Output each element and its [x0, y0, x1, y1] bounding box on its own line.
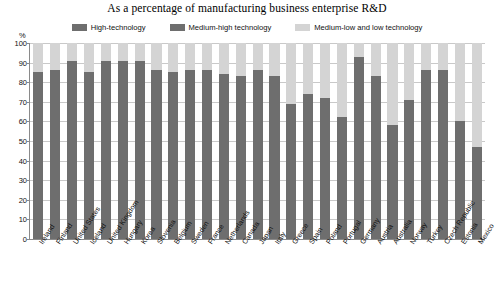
bar-segment-medium-high-technology	[236, 76, 246, 164]
bar-slot-poland[interactable]	[317, 43, 334, 239]
bar-slot-portugal[interactable]	[333, 43, 350, 239]
stacked-bar[interactable]	[421, 43, 431, 239]
x-label-slot: Portugal	[332, 240, 349, 302]
bar-segment-medium-high-technology	[337, 117, 347, 180]
bar-segment-medium-low-and-low-technology	[33, 43, 43, 72]
y-tick-label-60: 60	[19, 117, 27, 126]
x-label-slot: Estonia	[450, 240, 467, 302]
legend-item-medium-high-technology: Medium-high technology	[170, 23, 272, 32]
stacked-bar[interactable]	[185, 43, 195, 239]
stacked-bar[interactable]	[354, 43, 364, 239]
bar-segment-medium-high-technology	[135, 61, 145, 151]
x-label-slot: Japan	[248, 240, 265, 302]
y-tick-label-50: 50	[19, 137, 27, 146]
stacked-bar[interactable]	[253, 43, 263, 239]
stacked-bar[interactable]	[337, 43, 347, 239]
x-label-slot: Austria	[366, 240, 383, 302]
bar-segment-medium-low-and-low-technology	[118, 43, 128, 61]
stacked-bar[interactable]	[371, 43, 381, 239]
stacked-bar[interactable]	[269, 43, 279, 239]
bar-slot-slovenia[interactable]	[148, 43, 165, 239]
bar-segment-medium-low-and-low-technology	[253, 43, 263, 70]
bar-slot-austria[interactable]	[367, 43, 384, 239]
x-label-slot: Greece	[282, 240, 299, 302]
bar-segment-medium-high-technology	[168, 72, 178, 160]
bar-slot-czech-republic[interactable]	[435, 43, 452, 239]
bar-segment-medium-low-and-low-technology	[135, 43, 145, 61]
bar-slot-japan[interactable]	[249, 43, 266, 239]
stacked-bar[interactable]	[33, 43, 43, 239]
stacked-bar[interactable]	[303, 43, 313, 239]
bar-slot-united-states[interactable]	[64, 43, 81, 239]
bar-slot-sweden[interactable]	[182, 43, 199, 239]
bar-slot-france[interactable]	[199, 43, 216, 239]
stacked-bar[interactable]	[151, 43, 161, 239]
legend-item-medium-low-and-low-technology: Medium-low and low technology	[295, 23, 422, 32]
bar-segment-medium-high-technology	[269, 76, 279, 199]
bar-slot-australia[interactable]	[384, 43, 401, 239]
x-label-slot: Norway	[400, 240, 417, 302]
bar-segment-medium-high-technology	[219, 74, 229, 168]
stacked-bar[interactable]	[387, 43, 397, 239]
x-label-slot: Turkey	[417, 240, 434, 302]
stacked-bar[interactable]	[101, 43, 111, 239]
x-label-slot: Mexico	[467, 240, 484, 302]
bar-slot-norway[interactable]	[401, 43, 418, 239]
x-label-slot: Belgium	[164, 240, 181, 302]
bar-slot-spain[interactable]	[300, 43, 317, 239]
y-tick-label-10: 10	[19, 215, 27, 224]
legend-label-medium-high-technology: Medium-high technology	[189, 23, 272, 32]
bar-segment-medium-low-and-low-technology	[387, 43, 397, 125]
bar-segment-medium-low-and-low-technology	[101, 43, 111, 61]
bar-slot-netherlands[interactable]	[215, 43, 232, 239]
stacked-bar[interactable]	[286, 43, 296, 239]
bar-slot-turkey[interactable]	[418, 43, 435, 239]
bar-segment-medium-high-technology	[253, 70, 263, 184]
legend-label-medium-low-and-low-technology: Medium-low and low technology	[314, 23, 422, 32]
bar-slot-germany[interactable]	[350, 43, 367, 239]
bar-segment-medium-low-and-low-technology	[202, 43, 212, 70]
bar-slot-ireland[interactable]	[30, 43, 47, 239]
x-label-slot: Canada	[231, 240, 248, 302]
bar-segment-medium-low-and-low-technology	[337, 43, 347, 117]
bar-slot-belgium[interactable]	[165, 43, 182, 239]
stacked-bar[interactable]	[472, 43, 482, 239]
stacked-bar[interactable]	[438, 43, 448, 239]
bar-segment-medium-low-and-low-technology	[404, 43, 414, 100]
x-label-slot: Korea	[130, 240, 147, 302]
bar-segment-medium-low-and-low-technology	[50, 43, 60, 70]
legend-label-high-technology: High-technology	[91, 23, 146, 32]
bar-segment-medium-high-technology	[354, 57, 364, 190]
bar-slot-finland[interactable]	[47, 43, 64, 239]
bar-slot-italy[interactable]	[266, 43, 283, 239]
bar-segment-medium-high-technology	[472, 147, 482, 192]
stacked-bar[interactable]	[168, 43, 178, 239]
bar-segment-medium-high-technology	[320, 98, 330, 206]
x-label-slot: Finland	[46, 240, 63, 302]
bar-segment-medium-low-and-low-technology	[269, 43, 279, 76]
bar-segment-medium-low-and-low-technology	[421, 43, 431, 70]
stacked-bar[interactable]	[67, 43, 77, 239]
stacked-bar[interactable]	[202, 43, 212, 239]
stacked-bar[interactable]	[50, 43, 60, 239]
y-tick-label-0: 0	[23, 235, 27, 244]
x-label-slot: Slovenia	[147, 240, 164, 302]
x-label-slot: Italy	[265, 240, 282, 302]
bar-segment-medium-low-and-low-technology	[67, 43, 77, 61]
bar-segment-medium-high-technology	[286, 104, 296, 204]
bar-segment-medium-low-and-low-technology	[320, 43, 330, 98]
x-label-slot: United Kingdom	[96, 240, 113, 302]
stacked-bar[interactable]	[404, 43, 414, 239]
bar-segment-medium-low-and-low-technology	[219, 43, 229, 74]
bar-segment-medium-high-technology	[404, 100, 414, 212]
bar-slot-greece[interactable]	[283, 43, 300, 239]
bar-segment-medium-high-technology	[50, 70, 60, 143]
y-tick-label-30: 30	[19, 176, 27, 185]
stacked-bar[interactable]	[320, 43, 330, 239]
bar-segment-medium-low-and-low-technology	[286, 43, 296, 104]
x-label-slot: Australia	[383, 240, 400, 302]
stacked-bar[interactable]	[219, 43, 229, 239]
bar-segment-medium-high-technology	[202, 70, 212, 158]
bar-segment-medium-low-and-low-technology	[438, 43, 448, 70]
